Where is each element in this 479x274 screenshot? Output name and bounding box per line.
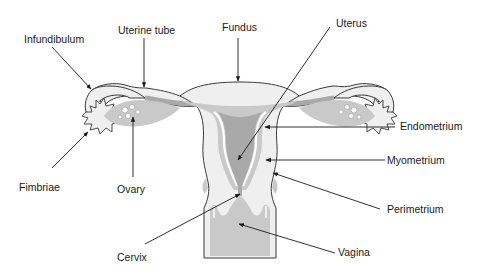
label-myometrium: Myometrium xyxy=(387,155,445,166)
label-perimetrium: Perimetrium xyxy=(387,204,444,215)
label-endometrium: Endometrium xyxy=(400,121,462,132)
label-fundus: Fundus xyxy=(222,22,257,33)
label-ovary: Ovary xyxy=(117,184,145,195)
label-cervix: Cervix xyxy=(117,252,147,263)
label-uterine-tube: Uterine tube xyxy=(118,25,175,36)
label-infundibulum: Infundibulum xyxy=(24,34,84,45)
label-uterus: Uterus xyxy=(336,18,367,29)
label-vagina: Vagina xyxy=(338,247,370,258)
label-fimbriae: Fimbriae xyxy=(19,182,60,193)
